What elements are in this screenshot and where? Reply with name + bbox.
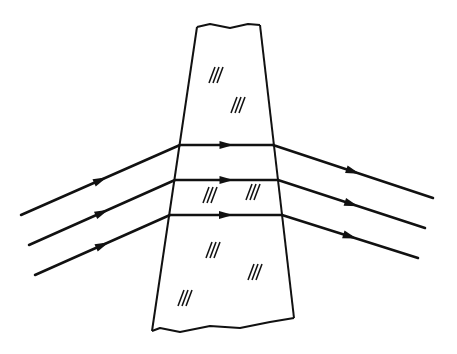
arrowhead-icon [220, 141, 234, 149]
hatch-mark [246, 184, 260, 200]
slab-bottom-edge [152, 318, 294, 332]
arrowhead-icon [94, 239, 110, 252]
arrowhead-icon [345, 166, 361, 178]
diagram-canvas [0, 0, 457, 354]
hatch-mark [209, 67, 223, 83]
arrowhead-icon [219, 211, 233, 219]
slab-top-edge [197, 24, 260, 28]
hatch-mark [206, 242, 220, 258]
arrowhead-icon [94, 206, 110, 219]
hatch-mark [203, 187, 217, 203]
arrowhead-icon [344, 198, 360, 210]
hatch-mark [231, 97, 245, 113]
hatch-mark [248, 264, 262, 280]
glass-texture-marks [178, 67, 262, 306]
arrowhead-icon [342, 231, 358, 243]
arrowhead-icon [92, 174, 108, 187]
refraction-diagram [0, 0, 457, 354]
light-rays [21, 141, 433, 275]
arrowhead-icon [220, 176, 234, 184]
slab-right-edge [260, 25, 294, 318]
hatch-mark [178, 290, 192, 306]
